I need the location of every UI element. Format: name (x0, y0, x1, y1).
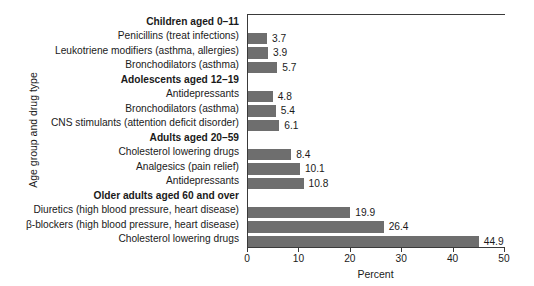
bar-row-empty (248, 15, 505, 30)
category-row: Antidepressants (26, 174, 243, 189)
bar-row: 44.9 (248, 233, 505, 248)
bar-value-label: 44.9 (484, 235, 504, 248)
bar-row-empty (248, 73, 505, 88)
bar (248, 33, 267, 45)
bar (248, 62, 277, 74)
bar-value-label: 26.4 (389, 220, 409, 233)
group-header-row: Adolescents aged 12–19 (26, 72, 243, 87)
bar (248, 178, 304, 190)
x-axis-title: Percent (247, 268, 504, 280)
bar-value-label: 3.9 (273, 46, 287, 59)
bar-value-label: 4.8 (278, 90, 292, 103)
category-label: Antidepressants (166, 88, 239, 99)
category-label: Antidepressants (166, 175, 239, 186)
bar-value-label: 8.4 (296, 148, 310, 161)
bar (248, 163, 300, 175)
x-axis-tick-labels: 01020304050 (247, 252, 504, 266)
bar-row: 3.9 (248, 44, 505, 59)
bar-row: 5.4 (248, 102, 505, 117)
category-row: Cholesterol lowering drugs (26, 232, 243, 247)
category-label: Bronchodilators (asthma) (125, 103, 239, 114)
category-label: Analgesics (pain relief) (136, 161, 239, 172)
bar (248, 149, 291, 161)
bar-row: 10.1 (248, 160, 505, 175)
category-label: Penicillins (treat infections) (118, 30, 239, 41)
bar-chart: Age group and drug type Children aged 0–… (0, 0, 534, 286)
category-row: β-blockers (high blood pressure, heart d… (26, 217, 243, 232)
x-tick-label: 20 (344, 252, 355, 265)
x-tick-label: 30 (396, 252, 407, 265)
category-row: Diuretics (high blood pressure, heart di… (26, 203, 243, 218)
bar-row: 5.7 (248, 59, 505, 74)
bar-value-label: 10.8 (309, 177, 329, 190)
bar (248, 91, 273, 103)
bar (248, 221, 384, 233)
bar-row: 19.9 (248, 204, 505, 219)
category-row: CNS stimulants (attention deficit disord… (26, 116, 243, 131)
bar-row: 8.4 (248, 146, 505, 161)
bar-row: 10.8 (248, 175, 505, 190)
category-row: Penicillins (treat infections) (26, 29, 243, 44)
bar-row: 4.8 (248, 88, 505, 103)
x-tick-label: 40 (447, 252, 458, 265)
group-header-label: Older adults aged 60 and over (93, 190, 239, 201)
bar-value-label: 10.1 (305, 162, 325, 175)
x-tick-label: 50 (498, 252, 509, 265)
bar (248, 120, 279, 132)
category-label: β-blockers (high blood pressure, heart d… (26, 219, 239, 230)
bar (248, 105, 276, 117)
group-header-label: Adults aged 20–59 (150, 132, 239, 143)
x-tick-label: 10 (293, 252, 304, 265)
bar-row-empty (248, 189, 505, 204)
category-row: Antidepressants (26, 87, 243, 102)
category-label: Cholesterol lowering drugs (118, 146, 239, 157)
bar (248, 207, 350, 219)
bar-value-label: 5.4 (281, 104, 295, 117)
category-label: Bronchodilators (asthma) (125, 59, 239, 70)
category-row: Analgesics (pain relief) (26, 159, 243, 174)
group-header-label: Adolescents aged 12–19 (121, 74, 239, 85)
bar-row: 6.1 (248, 117, 505, 132)
bar-value-label: 3.7 (272, 32, 286, 45)
bar-row-empty (248, 131, 505, 146)
category-row: Bronchodilators (asthma) (26, 58, 243, 73)
bar-value-label: 19.9 (355, 206, 375, 219)
category-label: CNS stimulants (attention deficit disord… (51, 117, 239, 128)
bar (248, 236, 479, 248)
category-row: Bronchodilators (asthma) (26, 101, 243, 116)
category-row: Cholesterol lowering drugs (26, 145, 243, 160)
category-label-column: Children aged 0–11Penicillins (treat inf… (26, 14, 243, 246)
x-tick-label: 0 (244, 252, 250, 265)
bar-value-label: 5.7 (282, 61, 296, 74)
bar-row: 26.4 (248, 218, 505, 233)
bar-value-label: 6.1 (284, 119, 298, 132)
group-header-row: Children aged 0–11 (26, 14, 243, 29)
category-label: Cholesterol lowering drugs (118, 233, 239, 244)
group-header-label: Children aged 0–11 (146, 16, 239, 27)
group-header-row: Older adults aged 60 and over (26, 188, 243, 203)
bar-row: 3.7 (248, 30, 505, 45)
category-label: Leukotriene modifiers (asthma, allergies… (55, 45, 239, 56)
category-row: Leukotriene modifiers (asthma, allergies… (26, 43, 243, 58)
bar (248, 47, 268, 59)
group-header-row: Adults aged 20–59 (26, 130, 243, 145)
plot-area: 3.73.95.74.85.46.18.410.110.819.926.444.… (247, 14, 505, 248)
category-label: Diuretics (high blood pressure, heart di… (33, 204, 239, 215)
